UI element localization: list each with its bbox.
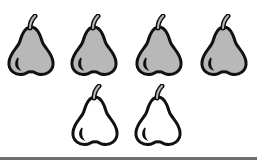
pear-white-1 bbox=[68, 84, 122, 148]
pear-white-2 bbox=[131, 84, 185, 148]
pear-gray-1 bbox=[4, 14, 58, 78]
pear-gray-4 bbox=[197, 14, 251, 78]
pear-gray-3 bbox=[132, 14, 186, 78]
baseline-divider bbox=[0, 157, 257, 160]
pear-gray-2 bbox=[67, 14, 121, 78]
